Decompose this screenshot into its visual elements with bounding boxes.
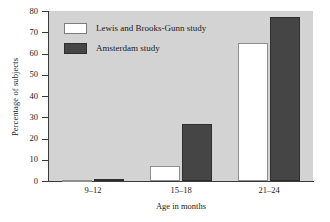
bar-chart-figure: Percentage of subjects 01020304050607080… [0,0,330,222]
legend-item-amsterdam: Amsterdam study [64,40,244,56]
y-tick-label: 60 [14,49,38,58]
y-tick-mark [42,32,48,33]
y-tick-mark [42,96,48,97]
bar-lewis-brooks-gunn-2 [238,43,268,181]
y-tick-mark [42,181,48,182]
legend-label: Amsterdam study [96,43,160,54]
y-tick-label: 0 [14,177,38,186]
x-axis-title: Age in months [49,201,313,212]
y-tick-label: 40 [14,92,38,101]
y-tick-label: 20 [14,134,38,143]
y-tick-label: 30 [14,113,38,122]
bar-amsterdam-0 [94,179,124,181]
legend-swatch-icon [64,43,87,54]
chart-legend: Lewis and Brooks-Gunn studyAmsterdam stu… [64,20,244,60]
y-tick-mark [42,139,48,140]
y-tick-mark [42,117,48,118]
y-tick-mark [42,54,48,55]
legend-swatch-icon [64,23,87,34]
bar-lewis-brooks-gunn-0 [62,180,92,182]
legend-item-lewis-brooks-gunn: Lewis and Brooks-Gunn study [64,20,244,36]
bar-amsterdam-2 [270,17,300,181]
legend-label: Lewis and Brooks-Gunn study [96,23,206,34]
x-tick-label: 9–12 [58,185,128,195]
y-tick-mark [42,160,48,161]
bar-lewis-brooks-gunn-1 [150,166,180,181]
bar-amsterdam-1 [182,124,212,181]
y-tick-mark [42,11,48,12]
y-tick-label: 80 [14,7,38,16]
y-tick-mark [42,75,48,76]
y-tick-label: 70 [14,28,38,37]
x-tick-label: 15–18 [146,185,216,195]
x-tick-label: 21–24 [234,185,304,195]
y-tick-label: 10 [14,155,38,164]
y-tick-label: 50 [14,70,38,79]
y-axis-line [48,11,49,182]
